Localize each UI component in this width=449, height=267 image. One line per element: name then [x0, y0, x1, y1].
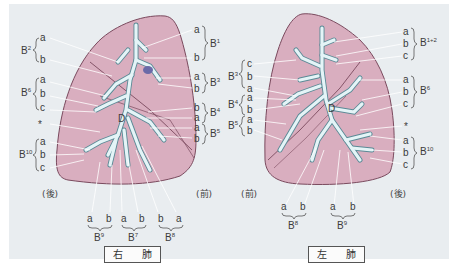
svg-text:b: b — [194, 133, 200, 144]
svg-text:b: b — [300, 201, 306, 212]
svg-text:b: b — [40, 88, 46, 99]
svg-text:a: a — [403, 26, 409, 37]
label-bottom-B8: B8 — [165, 232, 176, 243]
svg-text:a: a — [330, 201, 336, 212]
label-bottom-B7: B7 — [128, 232, 139, 243]
left-lung-left-labels: c b a B3 a b B4 a b B5 — [228, 58, 253, 136]
svg-text:a: a — [194, 24, 200, 35]
svg-text:b: b — [403, 38, 409, 49]
right-lung-caption: 右 肺 — [104, 246, 161, 263]
svg-text:a: a — [403, 135, 409, 146]
left-anterior-label: (前) — [241, 188, 257, 199]
svg-text:b: b — [158, 213, 164, 224]
right-lung-bottom-labels: a b B9 a b B7 b a B8 — [87, 213, 183, 243]
svg-text:b: b — [40, 54, 46, 65]
label-bottom-B9: B9 — [94, 232, 105, 243]
svg-text:c: c — [40, 102, 45, 113]
svg-text:a: a — [40, 32, 46, 43]
left-lung: D c b a B3 a b B4 a b B5 a — [228, 14, 438, 231]
svg-text:b: b — [403, 86, 409, 97]
svg-text:b: b — [139, 213, 145, 224]
bronchial-tree-diagram: D B2 a b B6 a b c * B10 — [0, 0, 449, 267]
svg-text:a: a — [121, 213, 127, 224]
right-marker-d: D — [118, 113, 125, 124]
svg-text:a: a — [403, 74, 409, 85]
right-lung: D B2 a b B6 a b c * B10 — [19, 16, 221, 243]
label-bottom-left-B8: B8 — [288, 220, 299, 231]
right-anterior-label: (前) — [196, 188, 212, 199]
svg-text:c: c — [403, 50, 408, 61]
label-B4: B4 — [210, 107, 221, 118]
label-left-asterisk: * — [404, 121, 408, 132]
svg-text:a: a — [194, 71, 200, 82]
left-posterior-label: (後) — [390, 188, 406, 199]
svg-text:b: b — [194, 52, 200, 63]
svg-text:b: b — [40, 149, 46, 160]
svg-text:a: a — [247, 114, 253, 125]
label-B10: B10 — [19, 149, 33, 160]
label-B6: B6 — [21, 87, 32, 98]
label-left-B3: B3 — [228, 71, 239, 82]
label-left-B6: B6 — [420, 85, 431, 96]
svg-text:b: b — [350, 201, 356, 212]
label-left-B5: B5 — [228, 120, 239, 131]
left-lung-right-labels: a b c B1+2 a b c B6 * a b c B10 — [403, 26, 438, 170]
label-left-B4: B4 — [228, 99, 239, 110]
right-pulmonary-artery-section — [143, 66, 153, 74]
svg-text:c: c — [40, 162, 45, 173]
svg-text:b: b — [106, 213, 112, 224]
left-lung-caption: 左 肺 — [308, 246, 365, 263]
label-B1: B1 — [210, 38, 221, 49]
label-left-B10: B10 — [420, 146, 434, 157]
svg-text:b: b — [194, 83, 200, 94]
label-B5: B5 — [210, 128, 221, 139]
right-lung-left-labels: B2 a b B6 a b c * B10 a b c — [19, 32, 46, 173]
label-asterisk: * — [38, 119, 42, 130]
svg-text:a: a — [40, 74, 46, 85]
svg-text:a: a — [247, 92, 253, 103]
label-B3: B3 — [210, 77, 221, 88]
label-bottom-left-B9: B9 — [337, 220, 348, 231]
svg-text:a: a — [194, 122, 200, 133]
svg-text:b: b — [403, 147, 409, 158]
label-B1plus2: B1+2 — [420, 37, 438, 48]
svg-text:c: c — [403, 159, 408, 170]
left-lung-bottom-labels: a b B8 a b B9 — [281, 201, 356, 231]
svg-text:c: c — [247, 58, 252, 69]
svg-text:a: a — [176, 213, 182, 224]
right-lung-right-labels: a b B1 a b B3 b a B4 a b B5 — [194, 24, 221, 144]
label-B2: B2 — [21, 45, 32, 56]
right-posterior-label: (後) — [42, 188, 58, 199]
svg-text:a: a — [40, 136, 46, 147]
svg-text:b: b — [247, 125, 253, 136]
svg-text:b: b — [247, 71, 253, 82]
svg-text:a: a — [281, 201, 287, 212]
left-marker-d: D — [328, 103, 335, 114]
svg-text:a: a — [87, 213, 93, 224]
svg-text:c: c — [403, 98, 408, 109]
